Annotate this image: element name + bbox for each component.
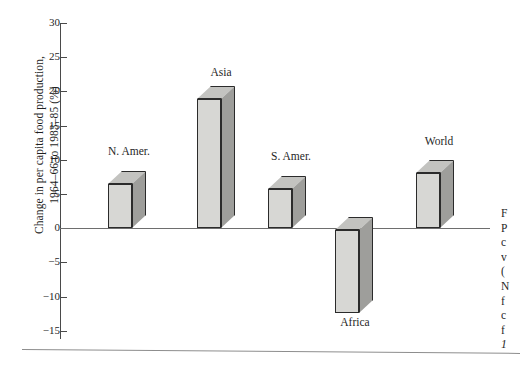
y-tick-label-neg15: −15: [0, 324, 60, 336]
bar-front-face-asia: [197, 99, 221, 228]
y-tick-label-20: 20: [0, 84, 60, 96]
caption-line-1: F: [501, 206, 520, 221]
y-tick-neg5: [60, 262, 67, 263]
caption-line-2: P: [501, 221, 520, 236]
bar-side-face-africa: [359, 217, 373, 313]
y-tick-label-25: 25: [0, 50, 60, 62]
page-divider-rule: [22, 349, 520, 354]
y-tick-20: [60, 91, 67, 92]
bar-front-face-s-amer: [268, 189, 292, 228]
y-tick-neg10: [60, 297, 67, 298]
y-tick-label-neg5: −5: [0, 255, 60, 267]
caption-line-5: (: [501, 264, 520, 279]
y-tick-15: [60, 126, 67, 127]
bar-label-asia: Asia: [178, 66, 264, 78]
y-tick-label-30: 30: [0, 16, 60, 28]
figure-caption: F P c v ( N f c f 1: [501, 206, 520, 352]
caption-line-8: c: [501, 308, 520, 323]
caption-line-4: v: [501, 250, 520, 265]
bar-front-face-africa: [335, 230, 359, 313]
bar-front-face-n-amer: [108, 184, 132, 228]
y-tick-10: [60, 160, 67, 161]
bar-label-s-amer: S. Amer.: [248, 150, 334, 162]
bar-label-world: World: [396, 135, 482, 147]
y-tick-neg15: [60, 331, 67, 332]
caption-line-3: c: [501, 235, 520, 250]
zero-baseline: [60, 228, 490, 229]
y-tick-label-0: 0: [0, 221, 60, 233]
y-axis-spine: [60, 23, 61, 339]
caption-line-6: N: [501, 279, 520, 294]
caption-line-9: f: [501, 323, 520, 338]
y-tick-25: [60, 57, 67, 58]
plot-area: 30 25 20 15 10 5 0 −5 −10 −15 N. Amer. A…: [60, 14, 500, 344]
y-tick-30: [60, 23, 67, 24]
y-tick-label-5: 5: [0, 187, 60, 199]
y-tick-5: [60, 194, 67, 195]
y-axis-label-line1: Change in per capita food production,: [33, 56, 45, 234]
caption-line-7: f: [501, 294, 520, 309]
figure-bar-chart: Change in per capita food production, 19…: [0, 0, 520, 367]
bar-label-africa: Africa: [312, 316, 398, 328]
bar-front-face-world: [416, 173, 440, 228]
bar-label-n-amer: N. Amer.: [86, 145, 172, 157]
y-tick-label-neg10: −10: [0, 290, 60, 302]
y-tick-label-15: 15: [0, 119, 60, 131]
caption-line-10: 1: [501, 337, 520, 352]
bar-side-face-asia: [221, 86, 235, 228]
y-tick-label-10: 10: [0, 153, 60, 165]
